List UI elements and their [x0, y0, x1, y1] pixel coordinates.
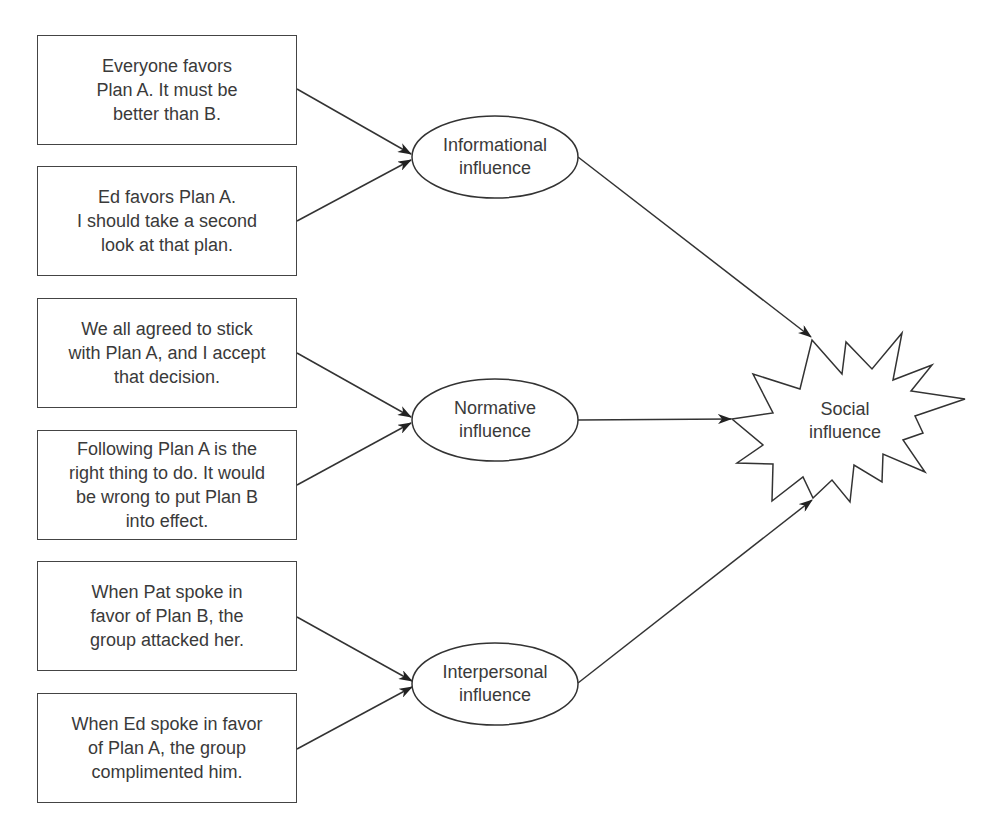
arrow-informational-to-social	[578, 157, 811, 337]
arrow-s3-to-normative	[297, 353, 411, 417]
source-box-1-text: Everyone favors Plan A. It must be bette…	[96, 54, 237, 126]
source-box-3-text: We all agreed to stick with Plan A, and …	[68, 317, 265, 389]
source-box-4: Following Plan A is the right thing to d…	[37, 430, 297, 540]
source-box-4-text: Following Plan A is the right thing to d…	[69, 437, 265, 533]
arrow-s5-to-interpersonal	[297, 617, 412, 681]
social-influence-label: Social influence	[790, 398, 900, 444]
source-box-2: Ed favors Plan A. I should take a second…	[37, 166, 297, 276]
normative-influence-label: Normative influence	[412, 397, 578, 443]
arrow-s1-to-informational	[297, 89, 411, 154]
source-box-6-text: When Ed spoke in favor of Plan A, the gr…	[71, 712, 262, 784]
informational-influence-label: Informational influence	[412, 134, 578, 180]
source-box-5-text: When Pat spoke in favor of Plan B, the g…	[90, 580, 244, 652]
arrow-interpersonal-to-social	[578, 500, 812, 683]
source-box-6: When Ed spoke in favor of Plan A, the gr…	[37, 693, 297, 803]
arrow-s4-to-normative	[297, 423, 411, 485]
source-box-2-text: Ed favors Plan A. I should take a second…	[77, 185, 257, 257]
interpersonal-influence-label: Interpersonal influence	[412, 661, 578, 707]
source-box-3: We all agreed to stick with Plan A, and …	[37, 298, 297, 408]
arrow-s6-to-interpersonal	[297, 687, 412, 749]
source-box-1: Everyone favors Plan A. It must be bette…	[37, 35, 297, 145]
arrow-normative-to-social	[578, 419, 731, 420]
source-box-5: When Pat spoke in favor of Plan B, the g…	[37, 561, 297, 671]
arrow-s2-to-informational	[297, 160, 411, 221]
